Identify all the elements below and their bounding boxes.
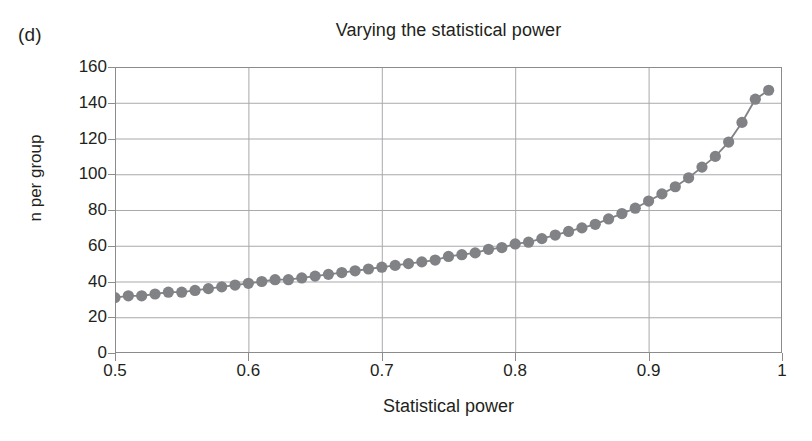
x-axis-tick-mark	[649, 353, 650, 361]
data-point-marker	[763, 85, 774, 96]
y-axis-tick-mark	[108, 67, 116, 68]
y-axis-tick-label: 20	[47, 308, 107, 325]
y-axis-tick-mark	[108, 103, 116, 104]
x-axis-tick-label: 1	[752, 362, 812, 379]
data-point-marker	[403, 258, 414, 269]
x-axis-tick-label: 0.7	[352, 362, 412, 379]
y-axis-tick-label: 140	[47, 94, 107, 111]
y-axis-tick-label: 40	[47, 273, 107, 290]
x-axis-tick-marks	[115, 353, 782, 362]
data-line	[115, 90, 769, 297]
chart-svg	[115, 67, 782, 353]
data-point-marker	[136, 290, 147, 301]
data-point-marker	[269, 274, 280, 285]
data-point-marker	[336, 267, 347, 278]
y-axis-title: n per group	[26, 98, 46, 258]
data-point-marker	[643, 195, 654, 206]
y-axis-tick-label: 160	[47, 58, 107, 75]
data-point-marker	[189, 285, 200, 296]
data-point-marker	[376, 262, 387, 273]
x-axis-tick-mark	[115, 353, 116, 361]
data-point-marker	[123, 290, 134, 301]
data-point-marker	[416, 256, 427, 267]
data-point-marker	[670, 181, 681, 192]
data-point-marker	[203, 283, 214, 294]
data-point-marker	[483, 244, 494, 255]
data-point-marker	[656, 188, 667, 199]
data-point-marker	[310, 271, 321, 282]
plot-area	[115, 67, 782, 353]
y-axis-tick-label: 80	[47, 201, 107, 218]
chart-title: Varying the statistical power	[115, 20, 782, 41]
x-axis-tick-mark	[382, 353, 383, 361]
data-point-marker	[523, 237, 534, 248]
y-axis-tick-labels: 020406080100120140160	[45, 67, 107, 353]
y-axis-tick-mark	[108, 317, 116, 318]
x-axis-tick-mark	[248, 353, 249, 361]
data-point-marker	[550, 229, 561, 240]
x-axis-tick-mark	[515, 353, 516, 361]
data-point-marker	[176, 287, 187, 298]
data-point-marker	[576, 222, 587, 233]
data-point-marker	[363, 263, 374, 274]
data-point-marker	[736, 117, 747, 128]
x-axis-tick-label: 0.6	[218, 362, 278, 379]
data-point-marker	[430, 254, 441, 265]
x-axis-tick-labels: 0.50.60.70.80.91	[115, 362, 782, 386]
data-point-marker	[630, 203, 641, 214]
data-point-marker	[149, 288, 160, 299]
data-point-marker	[229, 279, 240, 290]
data-point-marker	[456, 249, 467, 260]
y-axis-tick-mark	[108, 282, 116, 283]
data-markers	[115, 85, 774, 304]
data-point-marker	[323, 269, 334, 280]
data-point-marker	[296, 272, 307, 283]
data-point-marker	[390, 260, 401, 271]
x-axis-tick-label: 0.9	[619, 362, 679, 379]
y-axis-tick-marks	[107, 67, 116, 353]
y-axis-tick-label: 0	[47, 344, 107, 361]
data-point-marker	[256, 276, 267, 287]
y-axis-tick-mark	[108, 210, 116, 211]
data-point-marker	[723, 136, 734, 147]
data-point-marker	[163, 287, 174, 298]
series-polyline	[115, 90, 769, 297]
data-point-marker	[563, 226, 574, 237]
figure-panel-d: (d) Varying the statistical power n per …	[0, 0, 812, 441]
data-point-marker	[683, 172, 694, 183]
data-point-marker	[536, 233, 547, 244]
data-point-marker	[216, 281, 227, 292]
x-axis-tick-label: 0.8	[485, 362, 545, 379]
y-axis-tick-label: 60	[47, 237, 107, 254]
y-axis-tick-label: 100	[47, 165, 107, 182]
horizontal-gridlines	[115, 103, 782, 318]
x-axis-title: Statistical power	[115, 396, 782, 417]
panel-label: (d)	[18, 24, 42, 46]
x-axis-tick-label: 0.5	[85, 362, 145, 379]
data-point-marker	[350, 265, 361, 276]
data-point-marker	[603, 213, 614, 224]
data-point-marker	[696, 162, 707, 173]
x-axis-tick-mark	[782, 353, 783, 361]
data-point-marker	[470, 247, 481, 258]
y-axis-tick-label: 120	[47, 130, 107, 147]
data-point-marker	[283, 274, 294, 285]
data-point-marker	[496, 242, 507, 253]
data-point-marker	[590, 219, 601, 230]
y-axis-tick-mark	[108, 139, 116, 140]
data-point-marker	[510, 238, 521, 249]
data-point-marker	[243, 278, 254, 289]
y-axis-tick-mark	[108, 174, 116, 175]
data-point-marker	[443, 251, 454, 262]
data-point-marker	[750, 94, 761, 105]
y-axis-tick-mark	[108, 246, 116, 247]
data-point-marker	[710, 151, 721, 162]
data-point-marker	[616, 208, 627, 219]
